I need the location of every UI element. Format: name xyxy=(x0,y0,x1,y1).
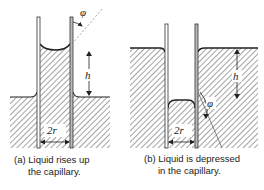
tube-wall-right xyxy=(195,24,198,148)
diameter-label: 2r xyxy=(47,124,58,136)
angle-label: φ xyxy=(80,6,86,18)
angle-label: φ xyxy=(207,97,213,109)
caption-a-line1: (a) Liquid rises up xyxy=(14,154,90,166)
caption-b-line2: in the capillary. xyxy=(158,165,221,177)
height-label: h xyxy=(233,70,239,82)
liquid-bath-left xyxy=(10,92,37,148)
panel-b: φ h 2r xyxy=(130,24,258,148)
liquid-bath-right xyxy=(73,92,110,148)
liquid-bath-left xyxy=(130,48,165,148)
panel-a: φ h 2r xyxy=(10,6,110,148)
tube-wall-right xyxy=(70,17,73,148)
tangent-line xyxy=(72,8,103,44)
tube-wall-left xyxy=(165,24,168,148)
caption-a-line2: the capillary. xyxy=(28,166,81,178)
height-label: h xyxy=(85,69,91,81)
diameter-label: 2r xyxy=(174,124,185,136)
tube-wall-left xyxy=(37,17,40,148)
caption-b-line1: (b) Liquid is depressed xyxy=(144,153,240,165)
angle-arc xyxy=(73,22,82,26)
